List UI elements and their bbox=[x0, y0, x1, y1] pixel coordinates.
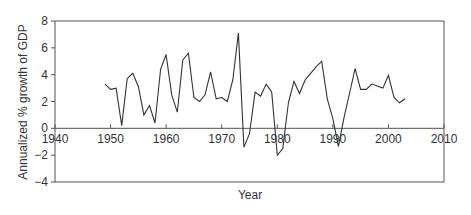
x-axis-label: Year bbox=[238, 188, 262, 202]
y-axis-label: Annualized % growth of GDP bbox=[16, 24, 30, 179]
x-tick-label: 1970 bbox=[208, 132, 235, 146]
y-tick-label: −2 bbox=[34, 148, 48, 162]
plot-frame bbox=[55, 21, 444, 182]
x-axis-ticks: 19401950196019701980199020002010 bbox=[42, 124, 458, 146]
y-tick-label: 2 bbox=[41, 95, 48, 109]
x-tick-label: 2000 bbox=[375, 132, 402, 146]
y-tick-label: 4 bbox=[41, 68, 48, 82]
x-tick-label: 1940 bbox=[42, 132, 69, 146]
gdp-growth-chart: −4−202468 194019501960197019801990200020… bbox=[0, 0, 471, 215]
x-tick-label: 2010 bbox=[431, 132, 458, 146]
y-tick-label: 8 bbox=[41, 14, 48, 28]
x-tick-label: 1950 bbox=[97, 132, 124, 146]
x-tick-label: 1980 bbox=[264, 132, 291, 146]
y-tick-label: −4 bbox=[34, 175, 48, 189]
y-axis-ticks: −4−202468 bbox=[34, 14, 55, 189]
x-tick-label: 1990 bbox=[320, 132, 347, 146]
x-tick-label: 1960 bbox=[153, 132, 180, 146]
y-tick-label: 6 bbox=[41, 41, 48, 55]
gdp-growth-line bbox=[105, 33, 405, 155]
